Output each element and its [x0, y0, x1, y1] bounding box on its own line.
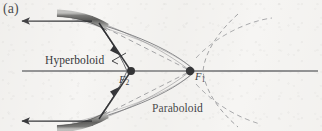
focus-F1-subscript: 1	[201, 75, 205, 84]
label-focus-F2: F2	[119, 75, 129, 86]
focus-F2-subscript: 2	[125, 78, 129, 87]
focus-point-F2	[127, 67, 135, 75]
figure-container: (a) Hyperboloid Paraboloid F2 F1	[0, 0, 322, 131]
virtual-ray-to-far-focus-upper	[98, 24, 189, 70]
label-paraboloid: Paraboloid	[152, 103, 203, 115]
hyperboloid-asymptote-arc-upper	[196, 18, 272, 58]
focus-point-F1	[186, 67, 194, 75]
panel-label: (a)	[3, 2, 19, 16]
label-focus-F1: F1	[195, 72, 205, 83]
label-hyperboloid: Hyperboloid	[45, 55, 104, 67]
hyperboloid-label-leader-tick	[112, 61, 118, 64]
